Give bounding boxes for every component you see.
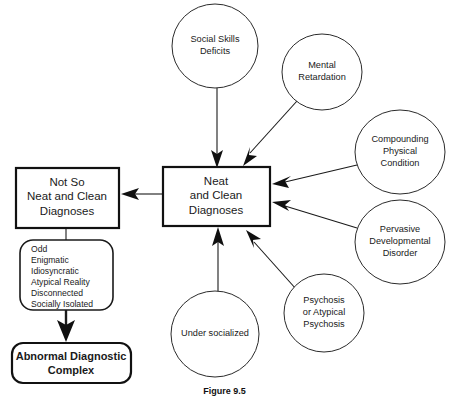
node-label-line: and Clean	[190, 189, 242, 201]
edge-pervasive-to-center	[272, 200, 357, 228]
list-item: Enigmatic	[31, 255, 69, 265]
node-label-line: Complex	[48, 364, 95, 376]
node-under-socialized[interactable]: Under socialized	[171, 291, 259, 377]
edge-compounding-to-center	[272, 165, 357, 188]
list-item: Idiosyncratic	[31, 266, 79, 276]
edge-descriptors-to-outcome	[57, 310, 75, 342]
edge-social-skills-to-center	[211, 88, 223, 168]
node-label-line: Abnormal Diagnostic	[16, 350, 127, 362]
node-label-line: Not So	[49, 176, 84, 188]
node-label-line: Deficits	[200, 46, 231, 56]
node-label-line: Diagnoses	[40, 205, 95, 217]
node-label-line: Neat	[204, 175, 229, 187]
node-label-line: Diagnoses	[189, 204, 244, 216]
node-label-line: Psychosis	[303, 295, 345, 305]
node-label-line: Psychosis	[303, 319, 345, 329]
edge-under-socialized-to-center	[212, 227, 224, 292]
node-social-skills-deficits[interactable]: Social Skills Deficits	[172, 4, 258, 88]
node-label-line: Retardation	[298, 72, 346, 82]
node-label-line: Developmental	[369, 236, 430, 246]
diagram-canvas: Neat and Clean Diagnoses Not So Neat and…	[0, 0, 449, 407]
node-psychosis-or-atypical-psychosis[interactable]: Psychosis or Atypical Psychosis	[284, 274, 364, 352]
list-item: Socially Isolated	[31, 299, 93, 309]
node-not-so-neat-and-clean-diagnoses[interactable]: Not So Neat and Clean Diagnoses	[16, 168, 119, 228]
node-abnormal-diagnostic-complex[interactable]: Abnormal Diagnostic Complex	[12, 343, 131, 383]
node-neat-and-clean-diagnoses[interactable]: Neat and Clean Diagnoses	[163, 167, 270, 226]
node-label-line: Compounding	[371, 134, 428, 144]
node-label-line: Disorder	[383, 248, 418, 258]
edge-psychosis-to-center	[246, 230, 296, 289]
list-item: Odd	[31, 244, 47, 254]
node-descriptor-list[interactable]: Odd Enigmatic Idiosyncratic Atypical Rea…	[20, 240, 113, 310]
list-item: Atypical Reality	[31, 277, 90, 287]
node-label-line: Mental	[308, 60, 336, 70]
edge-center-to-not-so	[121, 188, 162, 200]
node-label-line: Pervasive	[380, 224, 420, 234]
node-label-line: Neat and Clean	[27, 190, 107, 202]
list-item: Disconnected	[31, 288, 83, 298]
node-mental-retardation[interactable]: Mental Retardation	[282, 34, 362, 110]
node-label-line: Condition	[381, 158, 420, 168]
edge-mental-retardation-to-center	[243, 101, 297, 166]
node-compounding-physical-condition[interactable]: Compounding Physical Condition	[355, 110, 445, 194]
figure-caption: Figure 9.5	[0, 386, 449, 396]
node-label-line: Under socialized	[181, 328, 249, 338]
node-label-line: Physical	[383, 146, 417, 156]
node-label-line: or Atypical	[303, 307, 345, 317]
node-pervasive-developmental-disorder[interactable]: Pervasive Developmental Disorder	[355, 200, 445, 284]
node-label-line: Social Skills	[190, 34, 239, 44]
